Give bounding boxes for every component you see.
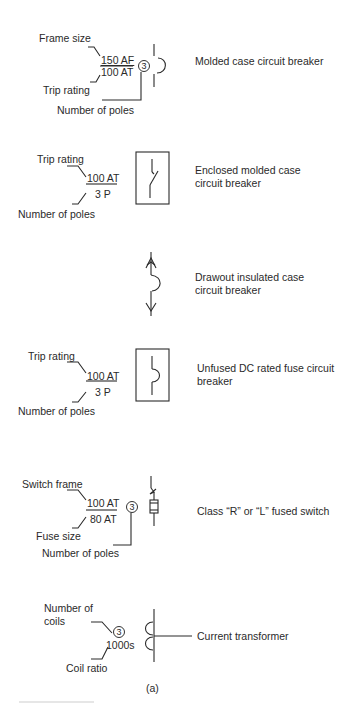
description-dc-fuse-breaker: Unfused DC rated fuse circuit breaker (197, 362, 337, 387)
label-coil-ratio: Coil ratio (66, 662, 107, 674)
value-trip-rating: 100 AT (101, 66, 134, 78)
label-trip-rating: Trip rating (37, 153, 84, 165)
poles-circle: 3 (126, 501, 138, 513)
value-switch-frame: 100 AT (87, 497, 120, 509)
label-number-of-poles: Number of poles (18, 405, 95, 417)
current-transformer-icon (91, 609, 192, 662)
label-trip-rating: Trip rating (43, 84, 90, 96)
label-number-of-coils: Number of coils (44, 602, 94, 627)
label-trip-rating: Trip rating (28, 350, 75, 362)
description-current-transformer: Current transformer (197, 630, 289, 642)
value-frame-size: 150 AF (101, 54, 134, 66)
label-fuse-size: Fuse size (36, 530, 81, 542)
coils-circle: 3 (113, 626, 125, 638)
footer-divider (19, 701, 94, 703)
description-enclosed-breaker: Enclosed molded case circuit breaker (195, 164, 325, 189)
description-molded-case: Molded case circuit breaker (195, 55, 325, 68)
value-poles: 3 P (95, 386, 111, 398)
label-frame-size: Frame size (39, 32, 91, 44)
value-poles: 3 P (95, 188, 111, 200)
poles-circle: 3 (138, 60, 150, 72)
drawout-breaker-icon (146, 252, 160, 316)
label-number-of-poles: Number of poles (57, 104, 134, 116)
description-drawout-breaker: Drawout insulated case circuit breaker (195, 271, 325, 296)
label-number-of-poles: Number of poles (42, 547, 119, 559)
figure-caption: (a) (146, 682, 159, 694)
value-coil-ratio: 1000s (106, 639, 135, 651)
value-fuse-size: 80 AT (90, 513, 117, 525)
label-number-of-poles: Number of poles (18, 208, 95, 220)
description-fused-switch: Class “R” or “L” fused switch (197, 505, 342, 518)
value-trip-rating: 100 AT (87, 172, 120, 184)
value-trip-rating: 100 AT (87, 370, 120, 382)
label-switch-frame: Switch frame (22, 478, 83, 490)
